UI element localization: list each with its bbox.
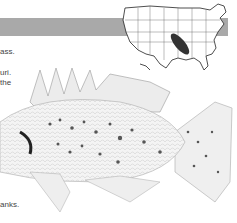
body-text-line: ass. [0,47,15,56]
fish-illustration [0,62,237,223]
